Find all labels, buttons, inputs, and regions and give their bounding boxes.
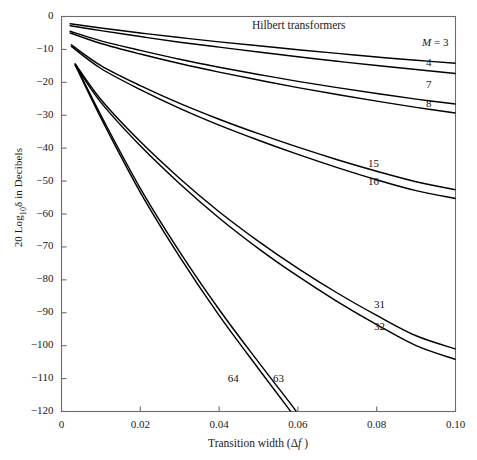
x-tick-label: 0.06: [278, 418, 318, 430]
curve-label-7: 7: [426, 78, 432, 90]
y-tick-label: −40: [20, 141, 54, 153]
x-tick-label: 0.10: [436, 418, 476, 430]
curve-label-15: 15: [368, 157, 379, 169]
curve-63: [75, 64, 296, 411]
curve-31: [75, 64, 455, 349]
x-tick-label: 0.04: [199, 418, 239, 430]
y-tick-label: −10: [20, 42, 54, 54]
curve-label-4: 4: [426, 56, 432, 68]
x-axis-title-delta: Δ: [291, 437, 298, 449]
y-tick-label: −20: [20, 75, 54, 87]
y-tick-label: −90: [20, 305, 54, 317]
curve-label-16: 16: [368, 175, 379, 187]
x-axis-title-close: ): [301, 437, 308, 449]
curve-4: [70, 26, 455, 74]
y-tick-label: 0: [20, 9, 54, 21]
curve-label-63: 63: [273, 372, 284, 384]
x-tick-label: 0.08: [357, 418, 397, 430]
y-tick-label: −30: [20, 108, 54, 120]
curve-32: [75, 65, 455, 359]
y-tick-label: −100: [20, 338, 54, 350]
x-axis-title-main: Transition width (: [208, 437, 291, 449]
y-tick-label: −50: [20, 174, 54, 186]
x-tick-label: 0: [42, 418, 82, 430]
y-tick-label: −80: [20, 272, 54, 284]
y-tick-label: −110: [20, 371, 54, 383]
curve-label-32: 32: [374, 320, 385, 332]
curve-label-8: 8: [426, 97, 432, 109]
curve-label-m-3: M = 3: [422, 36, 448, 48]
curve-label-64: 64: [228, 372, 239, 384]
plot-area: [0, 0, 477, 460]
curve-8: [70, 33, 455, 113]
curve-64: [75, 65, 291, 411]
curve-group: [70, 24, 455, 412]
y-tick-label: −60: [20, 207, 54, 219]
curve-label-31: 31: [374, 298, 385, 310]
x-axis-title: Transition width (Δf ): [61, 437, 455, 449]
chart-figure: 20 Log10δ in Decibels Transition width (…: [0, 0, 477, 460]
x-tick-label: 0.02: [120, 418, 160, 430]
curve-16: [71, 46, 455, 198]
y-tick-label: −120: [20, 404, 54, 416]
y-tick-label: −70: [20, 239, 54, 251]
chart-title: Hilbert transformers: [252, 19, 346, 31]
